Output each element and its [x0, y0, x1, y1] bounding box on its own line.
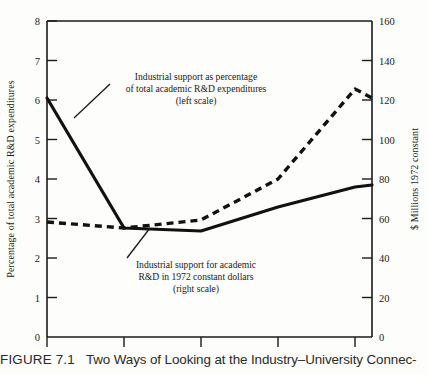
figure-page: 8 7 6 5 4 3 2 1 0 160 [0, 0, 428, 375]
left-axis-tick-labels: 8 7 6 5 4 3 2 1 0 [35, 16, 41, 343]
left-tick-label-6: 6 [35, 95, 40, 106]
figure-caption-text: Two Ways of Looking at the Industry–Univ… [86, 352, 417, 367]
right-tick-label-160: 160 [379, 16, 395, 27]
right-tick-label-100: 100 [379, 135, 395, 146]
annotation-right-scale-line-3: (right scale) [173, 283, 219, 295]
right-tick-label-80: 80 [379, 174, 390, 185]
right-tick-label-20: 20 [379, 293, 390, 304]
figure-caption-label: FIGURE 7.1 [0, 352, 75, 367]
right-tick-label-120: 120 [379, 95, 395, 106]
x-axis-ticks [47, 337, 355, 347]
left-axis-ticks [47, 21, 57, 298]
annotation-left-scale-line-2: of total academic R&D expenditures [126, 83, 267, 94]
series-line-percentage [47, 98, 372, 231]
right-axis-tick-labels: 160 140 120 100 80 60 40 20 0 [379, 16, 395, 343]
chart-canvas: 8 7 6 5 4 3 2 1 0 160 [0, 0, 428, 350]
left-tick-label-4: 4 [35, 174, 41, 185]
right-axis-title: $ Millions 1972 constant [409, 128, 420, 230]
annotation-left-scale-leader-line [74, 84, 110, 118]
annotation-left-scale: Industrial support as percentage of tota… [74, 71, 267, 118]
left-tick-label-0: 0 [35, 332, 40, 343]
right-tick-label-60: 60 [379, 214, 390, 225]
figure-caption: FIGURE 7.1Two Ways of Looking at the Ind… [0, 352, 428, 367]
left-tick-label-5: 5 [35, 135, 40, 146]
annotation-left-scale-line-3: (left scale) [176, 95, 217, 107]
chart-figure: 8 7 6 5 4 3 2 1 0 160 [0, 0, 428, 350]
right-tick-label-40: 40 [379, 253, 390, 264]
annotation-right-scale: Industrial support for academic R&D in 1… [127, 228, 256, 295]
annotation-right-scale-line-1: Industrial support for academic [136, 259, 256, 270]
left-axis-title: Percentage of total academic R&D expendi… [5, 80, 16, 277]
right-tick-label-0: 0 [379, 332, 384, 343]
left-tick-label-1: 1 [35, 293, 40, 304]
left-tick-label-8: 8 [35, 16, 40, 27]
annotation-right-scale-line-2: R&D in 1972 constant dollars [138, 271, 253, 282]
series-line-dollars [47, 89, 372, 228]
left-tick-label-3: 3 [35, 214, 40, 225]
left-tick-label-7: 7 [35, 56, 40, 67]
left-tick-label-2: 2 [35, 253, 40, 264]
annotation-right-scale-leader-line [127, 228, 150, 258]
annotation-left-scale-line-1: Industrial support as percentage [135, 71, 257, 82]
right-tick-label-140: 140 [379, 56, 395, 67]
